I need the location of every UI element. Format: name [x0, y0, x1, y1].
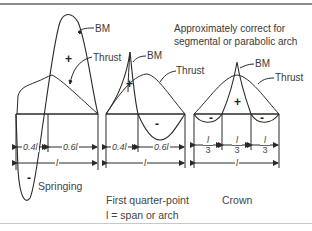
crown-minus-sign-left: - [209, 112, 213, 124]
crown-span: l [235, 158, 239, 168]
crown-bm-curve [194, 62, 279, 122]
crown-bm-label: BM [255, 58, 270, 69]
springing-dim-1: 0.6l [62, 142, 79, 152]
quarter-minus-sign: - [155, 118, 159, 130]
quarter-caption: First quarter-point [106, 194, 189, 206]
springing-plus-sign: + [65, 53, 72, 65]
span-definition: l = span or arch [106, 209, 179, 221]
crown-caption: Crown [222, 194, 252, 206]
quarter-dim-0: 0.4l [111, 142, 128, 152]
springing-dim-0: 0.4l [22, 142, 39, 152]
quarter-span: l [143, 158, 147, 168]
crown-thrust-label: Thrust [275, 72, 303, 83]
crown-dim-1: l3 [232, 136, 242, 155]
springing-bm-label: BM [95, 23, 110, 34]
note-line-1: Approximately correct for [174, 22, 297, 35]
approximation-note: Approximately correct for segmental or p… [174, 22, 297, 48]
quarter-plus-sign: + [126, 78, 133, 90]
crown-plus-sign: + [234, 96, 241, 108]
crown-minus-sign-right: - [260, 112, 264, 124]
note-line-2: segmental or parabolic arch [174, 35, 297, 48]
quarter-thrust-label: Thrust [176, 65, 204, 76]
springing-thrust-curve [17, 75, 98, 114]
crown-dim-2: l3 [260, 136, 270, 155]
quarter-bm-curve [106, 52, 185, 140]
quarter-dim-1: 0.6l [153, 142, 170, 152]
springing-thrust-label: Thrust [93, 52, 121, 63]
crown-dim-0: l3 [203, 136, 213, 155]
springing-minus-sign: - [27, 172, 31, 184]
springing-span: l [55, 158, 59, 168]
springing-thrust-leader [70, 57, 92, 84]
springing-caption: Springing [38, 180, 82, 192]
quarter-bm-label: BM [147, 50, 162, 61]
